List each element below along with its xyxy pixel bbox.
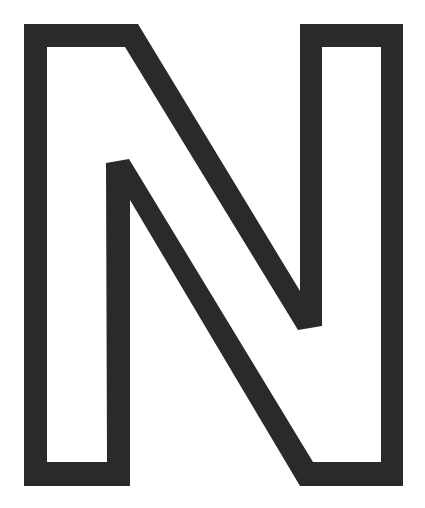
- letter-n-outline-shape: [24, 24, 403, 486]
- outlined-letter-n: [0, 0, 425, 508]
- letter-canvas: N: [0, 0, 425, 508]
